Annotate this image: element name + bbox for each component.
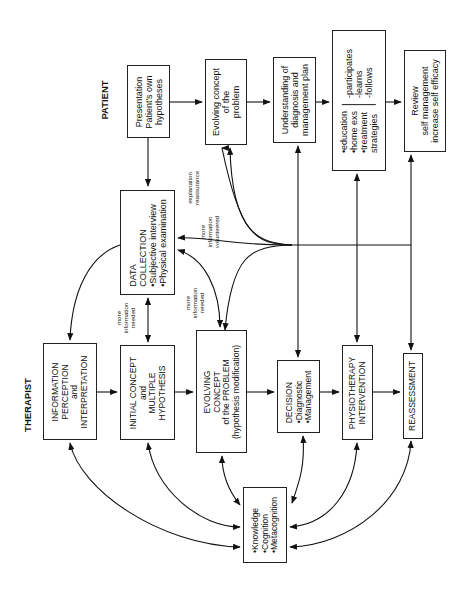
box-text: REASSESSMENT	[408, 361, 418, 431]
annotation-text: needed	[198, 288, 205, 319]
box-text: diagnosis and	[289, 64, 299, 136]
annotation-text: needed	[129, 303, 136, 334]
therapist-label: THERAPIST	[23, 378, 33, 432]
more-info-volunteered-annotation: more information volunteered	[200, 216, 220, 248]
box-text: Understanding of	[279, 64, 289, 136]
participation-box: •education •home exs •treatment strategi…	[332, 30, 386, 171]
physiotherapy-intervention-box: PHYSIOTHERAPY INTERVENTION	[342, 345, 373, 440]
understanding-box: Understanding of diagnosis and managemen…	[273, 57, 316, 143]
box-text: self management	[420, 59, 430, 142]
reassessment-box: REASSESSMENT	[403, 353, 423, 439]
box-text: •Physical examination	[158, 199, 168, 287]
intervention-list: •education •home exs •treatment strategi…	[339, 110, 379, 152]
box-text: •Management	[303, 370, 313, 423]
box-text: (hypothesis modification)	[231, 344, 241, 438]
box-text: of the	[221, 68, 231, 136]
box-text: DATA	[127, 199, 137, 287]
list-item: -learns	[354, 48, 364, 97]
annotation-text: volunteered	[213, 216, 220, 248]
review-box: Review self management increase self eff…	[404, 50, 446, 152]
box-text: Evolving concept	[211, 68, 221, 136]
patient-evolving-concept-box: Evolving concept of the problem	[205, 59, 247, 145]
list-item: -follows	[364, 48, 374, 97]
box-text: problem	[231, 68, 241, 136]
data-collection-box: DATA COLLECTION •Subjective interview •P…	[120, 190, 175, 295]
list-item: -participates	[344, 48, 354, 97]
list-item: strategies	[369, 110, 379, 152]
initial-concept-box: INITIAL CONCEPT and MULTIPLE HYPOTHESIS	[120, 345, 175, 440]
explanation-annotation: explanation reassurance	[187, 171, 201, 205]
divider	[342, 103, 376, 104]
more-info-needed-annotation-2: more information needed	[185, 288, 205, 319]
therapist-evolving-concept-box: EVOLVING CONCEPT of the PROBLEM (hypothe…	[196, 330, 247, 453]
annotation-text: reassurance	[194, 171, 201, 205]
box-text: Presentation	[133, 75, 143, 128]
box-text: •Subjective interview	[148, 199, 158, 287]
patient-label: PATIENT	[100, 80, 110, 119]
box-text: DECISION	[284, 370, 294, 423]
box-text: EVOLVING	[202, 344, 212, 438]
box-text: management plan	[300, 64, 310, 136]
box-text: PHYSIOTHERAPY	[348, 356, 358, 428]
knowledge-box: •Knowledge •Cognition •Metacognition	[243, 487, 287, 563]
list-item: •education	[339, 110, 349, 152]
information-perception-box: INFORMATION PERCEPTION and INTERPRETATIO…	[43, 343, 97, 440]
box-text: hypotheses	[154, 75, 164, 128]
box-text: MULTIPLE	[148, 356, 158, 428]
list-item: •treatment	[359, 110, 369, 152]
box-text: of the PROBLEM	[222, 344, 232, 438]
box-text: INTERVENTION	[358, 356, 368, 428]
decision-box: DECISION •Diagnostic •Management	[277, 360, 320, 433]
box-text: Review	[410, 59, 420, 142]
more-info-needed-annotation-1: more information needed	[116, 303, 136, 334]
box-text: INITIAL CONCEPT	[128, 356, 138, 428]
box-text: •Metacognition	[270, 497, 280, 553]
box-text: INTERPRETATION	[80, 355, 90, 428]
box-text: COLLECTION	[137, 199, 147, 287]
box-text: Patient's own	[143, 75, 153, 128]
patient-action-list: -participates -learns -follows	[344, 48, 374, 97]
box-text: HYPOTHESIS	[157, 356, 167, 428]
list-item: •home exs	[349, 110, 359, 152]
presentation-box: Presentation Patient's own hypotheses	[127, 65, 170, 138]
box-text: increase self efficacy	[430, 59, 440, 142]
